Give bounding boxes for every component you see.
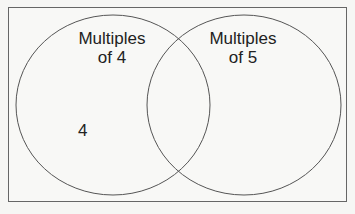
label-multiples-of-5: Multiples of 5 xyxy=(193,29,293,67)
label-line1: Multiples xyxy=(193,29,293,48)
venn-circles xyxy=(0,0,355,214)
label-line2: of 5 xyxy=(193,48,293,67)
label-line2: of 4 xyxy=(62,48,162,67)
label-multiples-of-4: Multiples of 4 xyxy=(62,29,162,67)
element-left-only: 4 xyxy=(78,121,87,141)
label-line1: Multiples xyxy=(62,29,162,48)
